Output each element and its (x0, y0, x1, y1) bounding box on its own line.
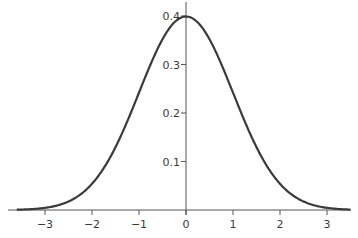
x-tick-label: 0 (183, 218, 190, 231)
y-tick-label: 0.3 (163, 59, 181, 72)
x-tick-label: −2 (84, 218, 100, 231)
normal-distribution-chart: −3−2−10123 0.10.20.30.4 (0, 0, 358, 238)
x-tick-label: 2 (277, 218, 284, 231)
x-tick-label: 3 (324, 218, 331, 231)
y-tick-label: 0.2 (163, 107, 181, 120)
x-tick-label: −3 (37, 218, 53, 231)
x-tick-label: −1 (131, 218, 147, 231)
x-tick-label: 1 (230, 218, 237, 231)
y-tick-label: 0.1 (163, 156, 181, 169)
x-axis-ticks: −3−2−10123 (37, 210, 331, 231)
